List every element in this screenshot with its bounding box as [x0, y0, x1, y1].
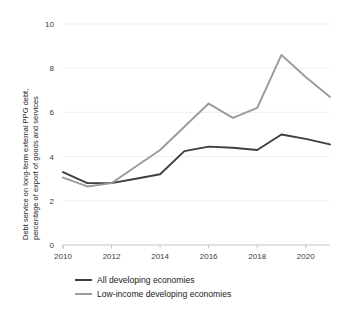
- x-tick-label: 2016: [200, 252, 218, 261]
- y-tick-label: 0: [50, 241, 55, 250]
- legend-label: Low-income developing economies: [97, 289, 231, 299]
- series-line-low-income-developing-economies: [63, 55, 330, 186]
- x-tick-label: 2020: [297, 252, 315, 261]
- line-chart: Debt service on long-term external PPG d…: [0, 0, 338, 316]
- y-tick-label: 8: [50, 64, 55, 73]
- gridlines: [63, 24, 330, 201]
- y-tick-label: 6: [50, 108, 55, 117]
- y-tick-label: 2: [50, 197, 55, 206]
- chart-legend: All developing economiesLow-income devel…: [75, 275, 231, 299]
- y-axis-title-line2: percentage of export of goods and servic…: [31, 96, 40, 240]
- legend-label: All developing economies: [97, 275, 194, 285]
- series-line-all-developing-economies: [63, 135, 330, 184]
- y-axis-title: Debt service on long-term external PPG d…: [21, 89, 40, 240]
- y-tick-label: 10: [45, 20, 54, 29]
- y-axis-title-line1: Debt service on long-term external PPG d…: [21, 89, 30, 240]
- x-tick-label: 2012: [103, 252, 121, 261]
- x-tick-label: 2018: [248, 252, 266, 261]
- x-axis-line: [63, 245, 330, 249]
- series-lines: [63, 55, 330, 186]
- chart-svg: Debt service on long-term external PPG d…: [0, 0, 338, 316]
- y-tick-label: 4: [50, 153, 55, 162]
- x-tick-label: 2010: [54, 252, 72, 261]
- x-tick-labels: 201020122014201620182020: [54, 252, 315, 261]
- x-tick-label: 2014: [151, 252, 169, 261]
- y-tick-labels: 0246810: [45, 20, 54, 250]
